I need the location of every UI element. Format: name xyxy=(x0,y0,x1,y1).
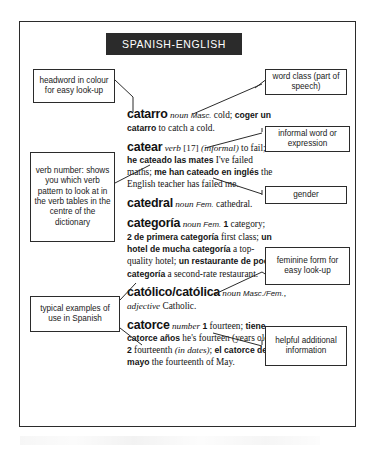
verb-number: [17] xyxy=(183,143,198,153)
gender-label: Masc./Fem. xyxy=(243,289,284,298)
callout-informal-word: informal word or expression xyxy=(265,126,350,152)
callout-word-class: word class (part of speech) xyxy=(265,69,347,95)
part-of-speech: noun xyxy=(175,199,193,209)
callout-label: word class (part of speech) xyxy=(269,72,343,93)
part-of-speech: noun xyxy=(222,288,240,298)
page-header-banner: SPANISH-ENGLISH xyxy=(106,33,242,55)
callout-gender: gender xyxy=(265,186,347,204)
register-label: (informal) xyxy=(201,143,239,153)
example-spanish: de primera categoría xyxy=(134,232,219,242)
gender-label: Masc. xyxy=(191,111,212,120)
sense-text: cathedral. xyxy=(214,199,253,209)
callout-label: verb number: shows you which verb patter… xyxy=(34,166,111,228)
sense-text: to fail; xyxy=(239,143,266,153)
dictionary-entry-categoria: categoría noun Fem. 1 category; 2 de pri… xyxy=(127,217,275,279)
callout-label: informal word or expression xyxy=(269,129,346,150)
gender-label: Fem. xyxy=(203,220,221,229)
example-english: a second-rate restaurant. xyxy=(165,269,258,279)
part-of-speech: noun xyxy=(183,219,201,229)
callout-typical-examples: typical examples of use in Spanish xyxy=(30,296,120,332)
dictionary-entry-catedral: catedral noun Fem. cathedral. xyxy=(127,197,275,211)
callout-label: gender xyxy=(293,190,319,200)
dictionary-entry-catorce: catorce number 1 fourteen; tiene catorce… xyxy=(127,319,275,368)
dictionary-entries-column: catarro noun Masc. cold; coger un catarr… xyxy=(127,108,275,375)
callout-label: headword in colour for easy look-up xyxy=(37,76,111,97)
headword-catorce: catorce xyxy=(127,318,170,332)
dictionary-entry-catear: catear verb [17] (informal) to fail; he … xyxy=(127,141,275,190)
callout-label: typical examples of use in Spanish xyxy=(34,304,116,325)
sense-text: fourteenth xyxy=(132,345,175,355)
example-english: to catch a cold. xyxy=(156,123,215,133)
page-title: SPANISH-ENGLISH xyxy=(122,38,226,50)
part-of-speech: number xyxy=(172,321,200,331)
gender-label: Fem. xyxy=(196,200,214,209)
sense-text: cold; xyxy=(211,110,234,120)
usage-note: (in dates) xyxy=(175,345,210,355)
example-english: first class; xyxy=(219,232,262,242)
sense-text: fourteen; xyxy=(207,321,245,331)
callout-headword-colour: headword in colour for easy look-up xyxy=(33,69,115,103)
headword-catear: catear xyxy=(127,140,162,154)
sense-text: Catholic. xyxy=(160,301,196,311)
part-of-speech: noun xyxy=(170,110,188,120)
callout-feminine-form: feminine form for easy look-up xyxy=(265,247,350,285)
callout-helpful-information: helpful additional information xyxy=(265,326,347,366)
example-spanish: me han cateado en inglés xyxy=(154,167,259,177)
callout-verb-number: verb number: shows you which verb patter… xyxy=(30,152,115,242)
example-spanish: he cateado las mates xyxy=(127,155,213,165)
headword-catolico-catolica: católico/católica xyxy=(127,285,220,299)
dictionary-entry-catolico: católico/católica noun Masc./Fem., adjec… xyxy=(127,286,275,312)
scan-artifact-smudge xyxy=(20,436,320,445)
headword-categoria: categoría xyxy=(127,216,180,230)
sense-text: category; xyxy=(228,219,265,229)
callout-label: helpful additional information xyxy=(269,336,343,357)
example-english: the fourteenth of May. xyxy=(149,357,234,367)
dictionary-entry-catarro: catarro noun Masc. cold; coger un catarr… xyxy=(127,108,275,134)
example-english: he's fourteen (years old); xyxy=(180,333,275,343)
headword-catedral: catedral xyxy=(127,196,173,210)
headword-catarro: catarro xyxy=(127,107,168,121)
callout-label: feminine form for easy look-up xyxy=(269,256,346,277)
part-of-speech: verb xyxy=(165,143,181,153)
